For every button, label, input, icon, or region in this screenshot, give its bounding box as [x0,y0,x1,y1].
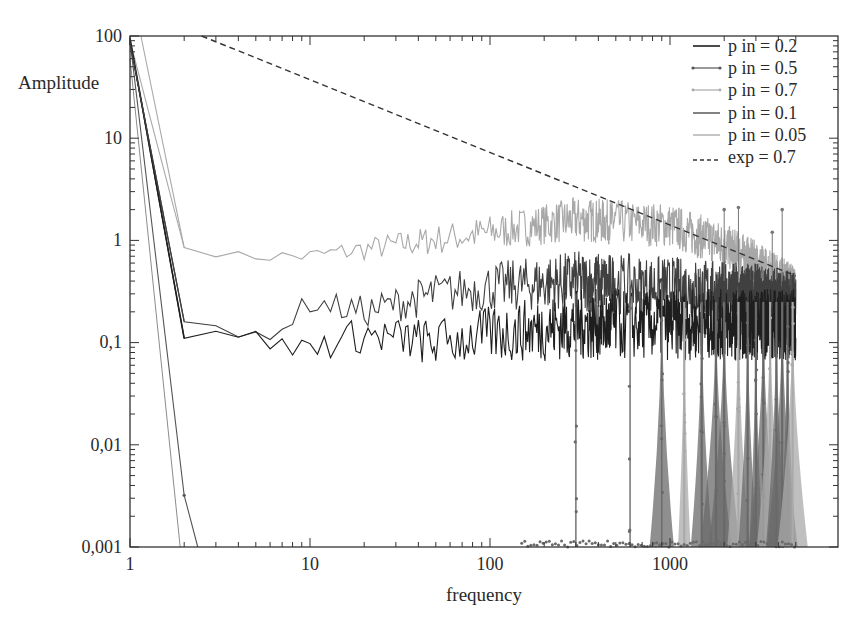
legend-label: p in = 0.05 [728,125,806,145]
y-tick-label-0.01: 0,01 [91,435,123,455]
legend: p in = 0.2 p in = 0.5 p in = 0.7 p in = … [691,36,806,167]
series-marker [713,542,716,545]
series-marker [563,543,566,546]
series-marker [532,543,535,546]
series-p-in-0.2 [130,41,796,362]
series-marker [557,543,560,546]
series-marker [574,321,577,324]
legend-label: p in = 0.1 [728,103,797,123]
series-marker [575,510,578,513]
series-marker [612,542,615,545]
series-marker [574,440,577,443]
series-marker [585,542,588,545]
series-marker [791,306,794,309]
series-marker [792,322,795,325]
series-marker [754,339,757,342]
series-marker [750,541,753,544]
series-marker [787,542,790,545]
series-marker [737,206,741,210]
series-marker [695,540,698,543]
series-marker [529,544,532,547]
series-exp-0.7 [202,36,796,276]
log-log-amplitude-chart: 100 10 1 0,1 0,01 0,001 1 10 100 1000 Am… [0,0,862,624]
y-tick-label-10: 10 [104,128,122,148]
legend-label: p in = 0.7 [728,80,797,100]
series-marker [631,543,634,546]
legend-marker-dot [691,66,694,69]
series-marker [741,543,744,546]
series-marker [707,543,710,546]
series-marker [591,542,594,545]
series-marker [762,540,765,543]
series-marker [628,457,631,460]
y-tick-label-0.001: 0,001 [82,537,123,557]
series-marker [701,540,704,543]
series-marker [716,540,719,543]
legend-item-p-in-0.5: p in = 0.5 [691,58,797,78]
series-marker [786,325,789,328]
y-tick-label-1: 1 [113,230,122,250]
legend-marker-dot [719,89,722,92]
series-marker [673,542,676,545]
y-tick-label-0.1: 0,1 [100,332,123,352]
series-marker [575,425,578,428]
series-marker [658,543,661,546]
series-p-in-0.05 [130,59,180,547]
series-marker [765,542,768,545]
series-marker [769,316,772,319]
series-marker [735,543,738,546]
series-marker [600,544,603,547]
series-marker [722,208,726,212]
series-marker [582,540,585,543]
series-marker [629,307,632,310]
series-marker [769,541,772,544]
series-marker [572,540,575,543]
series-marker [606,540,609,543]
series-marker [759,540,762,543]
legend-marker-dot [718,66,721,69]
y-axis-title: Amplitude [18,72,99,93]
series-marker [628,530,631,533]
series-marker [781,540,784,543]
series-marker [545,540,548,543]
y-tick-label-100: 100 [95,26,122,46]
series-marker [655,541,658,544]
series-marker [574,349,577,352]
legend-item-p-in-0.1: p in = 0.1 [693,103,797,123]
series-marker [628,385,631,388]
x-tick-label-1000: 1000 [652,554,688,574]
series-marker [790,543,793,546]
series-marker [772,540,775,543]
series-p-in-0.1 [130,43,796,339]
legend-item-exp-0.7: exp = 0.7 [693,147,796,167]
x-tick-label-10: 10 [301,554,319,574]
legend-marker-dot [692,89,695,92]
series-marker [548,540,551,543]
series-marker [594,541,597,544]
series-marker [689,542,692,545]
series-marker [677,542,680,545]
series-marker [520,542,523,545]
series-marker [683,338,686,341]
series-marker [780,208,784,212]
series-marker [603,544,606,547]
series-marker [539,540,542,543]
series-marker [575,497,578,500]
legend-item-p-in-0.2: p in = 0.2 [693,36,797,56]
series-marker [746,321,749,324]
series-marker [704,544,707,547]
legend-label: exp = 0.7 [728,147,796,167]
x-tick-label-100: 100 [477,554,504,574]
series-marker [621,541,624,544]
series-marker [747,544,750,547]
legend-item-p-in-0.7: p in = 0.7 [692,80,798,100]
series-marker [637,543,640,546]
series-marker [770,231,774,235]
series-marker [183,494,186,497]
series-marker [738,541,741,544]
series-marker [683,543,686,546]
series-marker [744,541,747,544]
legend-label: p in = 0.5 [728,58,797,78]
series-marker [719,543,722,546]
series-marker [732,543,735,546]
